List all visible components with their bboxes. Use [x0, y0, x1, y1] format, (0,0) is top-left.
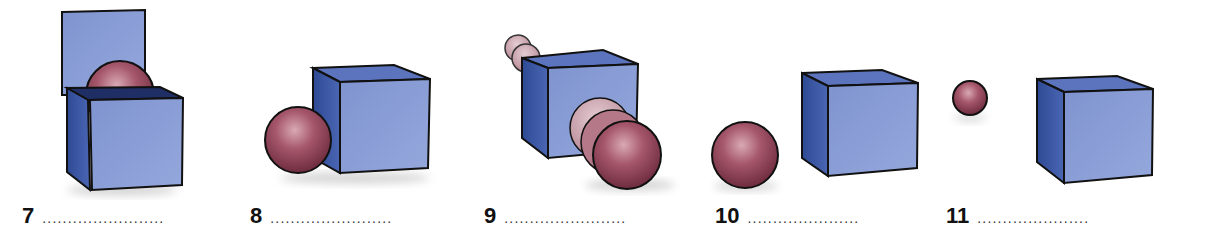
exercise-number: 7 [22, 203, 34, 229]
answer-blank[interactable]: ........................ [270, 210, 392, 226]
exercise-8: 8 ........................ [240, 0, 480, 237]
answer-blank[interactable]: ........................ [42, 210, 164, 226]
exercise-7: 7 ........................ [0, 0, 240, 237]
exercise-number: 11 [946, 203, 969, 229]
exercise-9: 9 ........................ [480, 0, 710, 237]
ball-beside-box-illustration [710, 0, 940, 200]
ball-next-to-box-illustration [240, 0, 480, 200]
answer-blank[interactable]: ........................ [504, 210, 626, 226]
exercise-10: 10 ...................... [710, 0, 940, 237]
exercise-number: 9 [484, 203, 496, 229]
exercise-11: 11 ...................... [940, 0, 1205, 237]
ball-in-open-box-illustration [0, 0, 240, 200]
exercise-number: 8 [250, 203, 262, 229]
small-ball-away-from-box-illustration [940, 0, 1205, 200]
exercise-number: 10 [715, 203, 739, 229]
ball-through-box-illustration [480, 0, 710, 200]
answer-blank[interactable]: ...................... [747, 210, 859, 226]
answer-blank[interactable]: ...................... [977, 210, 1089, 226]
